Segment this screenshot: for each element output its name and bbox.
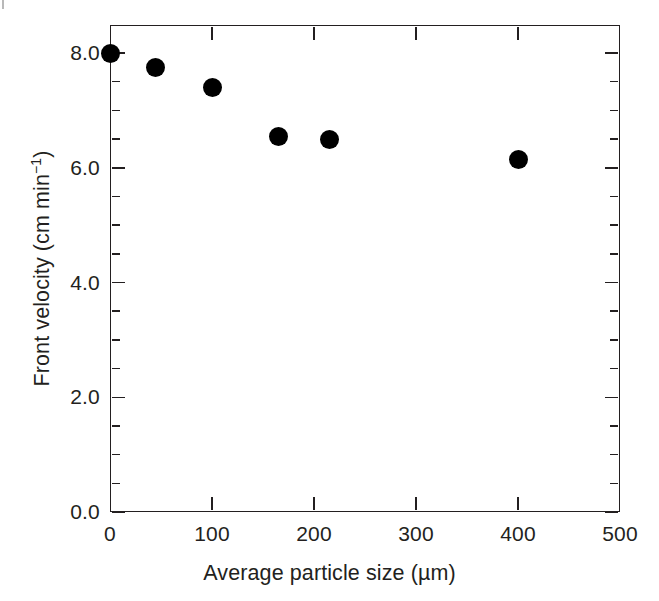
data-point-0 — [101, 44, 120, 63]
x-tick-200-top — [313, 27, 315, 40]
y-tick-8.0-right — [605, 52, 618, 54]
y-tick-7.5-right — [610, 81, 618, 83]
y-tick-1.5-right — [610, 425, 618, 427]
y-tick-label-4.0: 4.0 — [18, 271, 100, 295]
x-tick-100-bottom — [211, 497, 213, 510]
y-tick-3.5-left — [112, 310, 120, 312]
x-tick-400-top — [517, 27, 519, 40]
y-tick-4.0-left — [112, 282, 125, 284]
y-tick-7.5-left — [112, 81, 120, 83]
y-tick-3.0-left — [112, 339, 120, 341]
y-tick-1.0-right — [610, 454, 618, 456]
y-tick-5.5-left — [112, 196, 120, 198]
y-tick-7.0-left — [112, 110, 120, 112]
y-tick-0.5-left — [112, 483, 120, 485]
y-tick-6.5-left — [112, 138, 120, 140]
y-tick-5.0-right — [610, 224, 618, 226]
y-tick-2.5-right — [610, 368, 618, 370]
y-tick-4.5-left — [112, 253, 120, 255]
y-tick-2.5-left — [112, 368, 120, 370]
x-tick-100-top — [211, 27, 213, 40]
y-tick-0.5-right — [610, 483, 618, 485]
x-tick-label-200: 200 — [296, 522, 332, 546]
x-tick-200-bottom — [313, 497, 315, 510]
y-tick-3.0-right — [610, 339, 618, 341]
y-tick-3.5-right — [610, 310, 618, 312]
y-tick-7.0-right — [610, 110, 618, 112]
y-tick-1.5-left — [112, 425, 120, 427]
y-tick-2.0-left — [112, 397, 125, 399]
figure-scatter-front-velocity: Average particle size (µm) Front velocit… — [0, 0, 659, 601]
y-tick-label-8.0: 8.0 — [18, 41, 100, 65]
data-point-3 — [269, 127, 288, 146]
y-axis-title: Front velocity (cm min−1) — [30, 25, 55, 512]
y-tick-5.0-left — [112, 224, 120, 226]
y-tick-5.5-right — [610, 196, 618, 198]
y-tick-4.5-right — [610, 253, 618, 255]
data-point-5 — [509, 150, 528, 169]
y-tick-6.0-right — [605, 167, 618, 169]
x-axis-title: Average particle size (µm) — [0, 561, 659, 586]
y-tick-label-0.0: 0.0 — [18, 500, 100, 524]
scan-artifact-mark — [2, 0, 4, 9]
plot-area — [110, 25, 620, 512]
y-tick-0.0-left — [112, 511, 125, 513]
x-tick-label-0: 0 — [104, 522, 116, 546]
data-point-4 — [320, 130, 339, 149]
y-tick-6.5-right — [610, 138, 618, 140]
y-tick-2.0-right — [605, 397, 618, 399]
x-tick-label-300: 300 — [398, 522, 434, 546]
y-tick-0.0-right — [605, 511, 618, 513]
x-tick-300-bottom — [415, 497, 417, 510]
y-tick-label-2.0: 2.0 — [18, 385, 100, 409]
y-tick-label-6.0: 6.0 — [18, 156, 100, 180]
y-tick-6.0-left — [112, 167, 125, 169]
y-tick-4.0-right — [605, 282, 618, 284]
x-tick-label-400: 400 — [500, 522, 536, 546]
x-tick-label-100: 100 — [194, 522, 230, 546]
y-tick-1.0-left — [112, 454, 120, 456]
x-tick-300-top — [415, 27, 417, 40]
x-tick-label-500: 500 — [602, 522, 638, 546]
x-tick-400-bottom — [517, 497, 519, 510]
data-point-2 — [203, 78, 222, 97]
